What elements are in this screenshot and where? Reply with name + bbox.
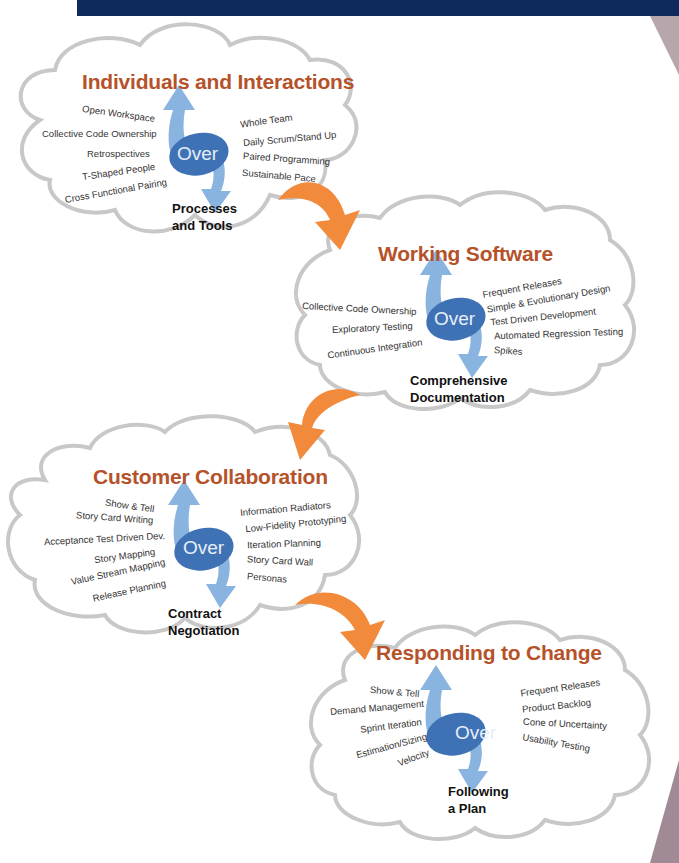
practice-item: Retrospectives bbox=[87, 148, 150, 159]
over-label: Over bbox=[434, 308, 475, 330]
over-label: Over bbox=[177, 143, 218, 165]
cloud-title: Individuals and Interactions bbox=[82, 70, 354, 94]
versus-label: Following a Plan bbox=[448, 783, 518, 817]
versus-label: Comprehensive Documentation bbox=[410, 372, 520, 406]
cloud-title: Working Software bbox=[378, 242, 553, 266]
cloud-title: Customer Collaboration bbox=[93, 465, 328, 489]
cloud-title: Responding to Change bbox=[376, 641, 602, 665]
versus-label: Contract Negotiation bbox=[168, 605, 248, 639]
practice-item: Spikes bbox=[494, 344, 523, 357]
versus-label: Processes and Tools bbox=[172, 200, 242, 234]
over-label: Over bbox=[183, 537, 224, 559]
practice-item: Collective Code Ownership bbox=[42, 128, 157, 139]
over-label: Over bbox=[455, 722, 496, 744]
